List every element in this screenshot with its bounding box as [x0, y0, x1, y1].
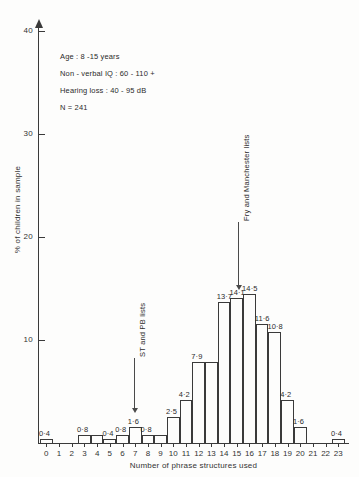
x-tick-label: 23 [331, 449, 345, 458]
x-tick [72, 443, 73, 447]
bar [268, 332, 281, 443]
annotation-label-st-pb: ST and PB lists [138, 303, 147, 357]
bar-value-label: 4·2 [280, 390, 291, 399]
x-tick [313, 443, 314, 447]
x-tick [135, 443, 136, 447]
x-tick [123, 443, 124, 447]
info-line-iq: Non - verbal IQ : 60 - 110 + [60, 69, 155, 78]
bar [154, 435, 167, 443]
x-tick [148, 443, 149, 447]
y-tick-label: 10 [0, 335, 33, 344]
x-tick [262, 443, 263, 447]
annotation-label-fry-manchester: Fry and Manchester lists [242, 135, 251, 222]
x-tick [338, 443, 339, 447]
bar-value-label: 10·8 [267, 322, 282, 331]
annotation-line-st-pb [134, 358, 135, 408]
x-tick [300, 443, 301, 447]
annotation-arrowhead-st-pb [132, 408, 138, 413]
x-tick [199, 443, 200, 447]
bar [180, 400, 193, 443]
x-tick [110, 443, 111, 447]
y-tick-label: 30 [0, 129, 33, 138]
annotation-arrowhead-fry-manchester [236, 285, 242, 290]
figure-canvas: % of children in sample Number of phrase… [0, 0, 359, 477]
bar [167, 417, 180, 443]
info-line-n: N = 241 [60, 103, 88, 112]
bar [332, 439, 345, 443]
annotation-line-fry-manchester [238, 222, 239, 285]
bar-value-label: 0·4 [102, 429, 113, 438]
bar [103, 439, 116, 443]
y-axis-line [38, 26, 39, 443]
bar-value-label: 7·9 [191, 352, 202, 361]
bar [256, 324, 269, 443]
y-tick [38, 340, 45, 341]
info-line-hearing: Hearing loss : 40 - 95 dB [60, 86, 146, 95]
bar [218, 302, 231, 443]
x-tick [249, 443, 250, 447]
info-line-age: Age : 8 -15 years [60, 52, 120, 61]
x-tick [275, 443, 276, 447]
x-tick [326, 443, 327, 447]
x-tick [84, 443, 85, 447]
bar [142, 435, 155, 443]
y-tick-label: 20 [0, 232, 33, 241]
bar [116, 435, 129, 443]
y-axis-title: % of children in sample [13, 155, 22, 265]
bar [205, 362, 218, 443]
bar-value-label: 0·8 [115, 425, 126, 434]
y-tick [38, 237, 45, 238]
bar [40, 439, 53, 443]
bar-value-label: 4·2 [179, 390, 190, 399]
bar-value-label: 1·6 [128, 417, 139, 426]
y-axis-arrow-icon [35, 19, 43, 28]
y-tick [38, 31, 45, 32]
x-tick [46, 443, 47, 447]
x-tick [224, 443, 225, 447]
bar [192, 362, 205, 443]
x-tick [237, 443, 238, 447]
x-tick [59, 443, 60, 447]
x-tick [186, 443, 187, 447]
x-tick [97, 443, 98, 447]
bar-value-label: 0·4 [39, 429, 50, 438]
x-tick [173, 443, 174, 447]
x-tick [211, 443, 212, 447]
bar [230, 298, 243, 443]
bar-value-label: 0·8 [77, 425, 88, 434]
bar-value-label: 0·4 [331, 429, 342, 438]
y-tick [38, 134, 45, 135]
x-tick [288, 443, 289, 447]
bar [78, 435, 91, 443]
bar-value-label: 2·5 [166, 407, 177, 416]
bar-value-label: 14·5 [242, 284, 257, 293]
x-tick [161, 443, 162, 447]
y-tick-label: 40 [0, 26, 33, 35]
x-axis-title: Number of phrase structures used [38, 461, 349, 470]
bar-value-label: 0·8 [141, 425, 152, 434]
bar [294, 427, 307, 443]
bar-value-label: 1·6 [293, 417, 304, 426]
